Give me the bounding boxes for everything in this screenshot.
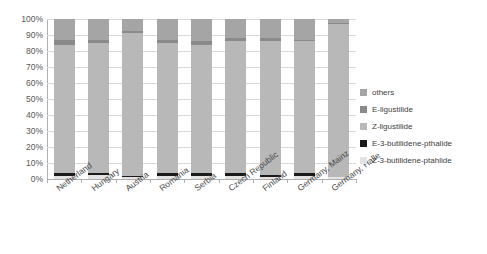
x-axis-tick-mark [184, 179, 185, 183]
legend-swatch-icon [360, 123, 367, 130]
bar-segment [294, 41, 315, 173]
bar-hungary[interactable] [88, 19, 109, 179]
legend-item[interactable]: others [360, 84, 487, 101]
bar-czech-republic[interactable] [225, 19, 246, 179]
bar-segment [225, 41, 246, 173]
bar-segment [54, 45, 75, 174]
y-axis-tick-mark [39, 83, 43, 84]
y-axis-tick-mark [39, 163, 43, 164]
y-axis-tick-mark [39, 99, 43, 100]
legend-item[interactable]: E-ligustilide [360, 101, 487, 118]
x-axis-tick-mark [219, 179, 220, 183]
bar-segment [157, 19, 178, 40]
bar-segment [122, 19, 143, 31]
bar-segment [88, 43, 109, 173]
y-axis-tick-mark [39, 67, 43, 68]
legend-swatch-icon [360, 89, 367, 96]
y-axis-tick-mark [39, 147, 43, 148]
bar-segment [260, 19, 281, 38]
y-axis-tick-labels: 100%90%80%70%60%50%40%30%20%10%0% [0, 19, 43, 179]
legend-item[interactable]: E-3-butilidene-pthalide [360, 135, 487, 152]
plot-area [47, 19, 356, 179]
bar-segment [294, 19, 315, 40]
bar-segment [54, 19, 75, 40]
bar-austria[interactable] [122, 19, 143, 179]
bar-segment [122, 33, 143, 176]
x-axis-tick-mark [81, 179, 82, 183]
legend-item-label: E-3-butilidene-pthalide [372, 140, 452, 148]
x-axis-tick-mark [287, 179, 288, 183]
legend-item-label: Z-ligustilide [372, 123, 412, 131]
bar-netherland[interactable] [54, 19, 75, 179]
bar-segment [225, 19, 246, 38]
bar-segment [88, 19, 109, 40]
legend-swatch-icon [360, 106, 367, 113]
legend-swatch-icon [360, 157, 367, 164]
bar-germany-mainz[interactable] [294, 19, 315, 179]
x-axis-tick-mark [116, 179, 117, 183]
x-axis-tick-mark [356, 179, 357, 183]
bar-segment [191, 19, 212, 41]
bar-segment [157, 43, 178, 173]
legend-item[interactable]: Z-ligustilide [360, 118, 487, 135]
bar-segment [191, 45, 212, 174]
y-axis-tick-mark [39, 179, 43, 180]
x-axis-tick-mark [322, 179, 323, 183]
bar-serbia[interactable] [191, 19, 212, 179]
x-axis-tick-mark [47, 179, 48, 183]
stacked-bar-chart: 100%90%80%70%60%50%40%30%20%10%0% Nether… [0, 0, 487, 254]
legend-swatch-icon [360, 140, 367, 147]
y-axis-tick-mark [39, 131, 43, 132]
legend-item-label: Z-3-butilidene-ptahlide [372, 157, 452, 165]
y-axis-tick-mark [39, 115, 43, 116]
legend-item-label: others [372, 89, 394, 97]
legend-item-label: E-ligustilide [372, 106, 413, 114]
x-axis-tick-mark [150, 179, 151, 183]
chart-legend: othersE-ligustilideZ-ligustilideE-3-buti… [360, 84, 487, 169]
x-axis-tick-mark [253, 179, 254, 183]
y-axis-tick-mark [39, 19, 43, 20]
bar-romania[interactable] [157, 19, 178, 179]
legend-item[interactable]: Z-3-butilidene-ptahlide [360, 152, 487, 169]
y-axis-tick-mark [39, 35, 43, 36]
y-axis-tick-mark [39, 51, 43, 52]
